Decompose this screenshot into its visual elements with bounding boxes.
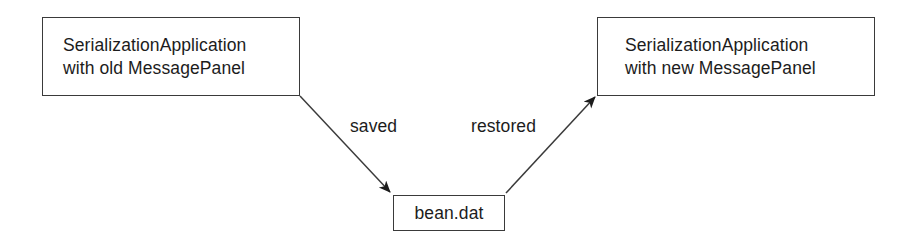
node-data-file-label: bean.dat xyxy=(415,202,484,225)
edge-restored-line xyxy=(506,97,595,193)
node-target-application: SerializationApplication with new Messag… xyxy=(597,17,875,96)
edge-label-saved: saved xyxy=(350,116,397,136)
edge-label-restored: restored xyxy=(471,116,536,136)
node-source-line-2: with old MessagePanel xyxy=(63,57,299,80)
node-target-line-1: SerializationApplication xyxy=(625,34,874,57)
edge-saved-line xyxy=(300,96,390,192)
node-source-line-1: SerializationApplication xyxy=(63,34,299,57)
node-data-file: bean.dat xyxy=(393,195,505,231)
node-source-application: SerializationApplication with old Messag… xyxy=(42,17,300,96)
node-target-line-2: with new MessagePanel xyxy=(625,57,874,80)
